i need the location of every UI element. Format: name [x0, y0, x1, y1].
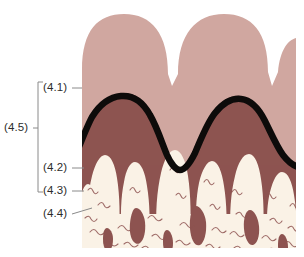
bracket-4-5 — [38, 82, 43, 192]
figure-root: (4.1) (4.2) (4.3) (4.4) (4.5) — [0, 0, 304, 257]
callout-label-4-5: (4.5) — [4, 121, 28, 133]
callout-label-4-3: (4.3) — [43, 184, 67, 196]
callout-label-4-2: (4.2) — [43, 161, 67, 173]
callout-label-4-4: (4.4) — [43, 207, 67, 219]
tissue-block — [78, 8, 300, 257]
callout-label-4-1: (4.1) — [43, 81, 67, 93]
